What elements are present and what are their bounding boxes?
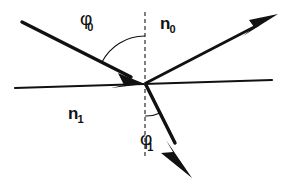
upper-medium-index-label: n0 [160,14,176,35]
diagram-canvas [0,0,286,187]
phi-subscript-refracted: 1 [147,141,153,153]
n-subscript-upper: 0 [169,23,175,35]
angle-of-refraction-label: φ1 [140,128,153,153]
angle-of-incidence-label: φ0 [80,8,93,33]
refracted-angle-arc [145,113,160,116]
lower-medium-index-label: n1 [68,104,84,125]
optics-ray-diagram: φ0 n0 n1 φ1 [0,0,286,187]
phi-subscript: 0 [87,21,93,33]
n-subscript-lower: 1 [77,113,83,125]
incident-angle-arc [102,36,145,62]
